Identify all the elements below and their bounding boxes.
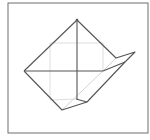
main-outline (24, 20, 135, 110)
apex-point (76, 19, 79, 22)
faint-fold-lines (62, 58, 116, 110)
frame-border (8, 3, 148, 133)
diagram-canvas (0, 0, 150, 140)
